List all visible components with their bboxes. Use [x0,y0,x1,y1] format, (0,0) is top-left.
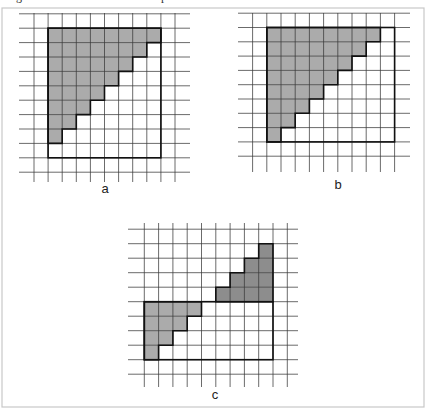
shaded-cell-dark [230,273,273,288]
panel-c: c [128,223,298,402]
shaded-cell [48,71,119,85]
panel-a: a [19,13,190,196]
panel-label-c: c [212,387,219,402]
shaded-cell-dark [259,244,273,259]
shaded-cell [48,129,62,143]
shaded-cell [267,128,281,142]
shaded-cell [267,70,338,84]
grid-staircase-figure: a b c [0,0,427,408]
panel-label-b: b [334,177,341,192]
shaded-cell [144,345,158,360]
shaded-cell [267,42,366,56]
panel-label-a: a [101,181,109,196]
shaded-cell [48,100,90,114]
shaded-cell [144,316,187,331]
panel-b: b [238,13,410,192]
shaded-cell [267,99,310,113]
shaded-cell [48,43,147,57]
